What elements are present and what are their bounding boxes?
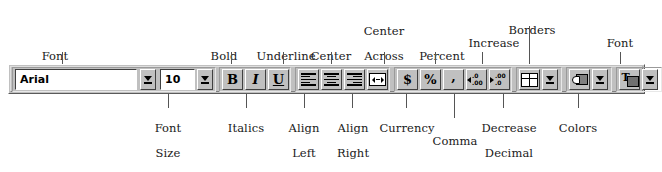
formatting-toolbar: Arial 10 B I U: [8, 64, 645, 94]
callout-label-align-right: Align Right: [329, 110, 377, 172]
italic-icon: I: [252, 73, 258, 86]
font-color-dropdown-button[interactable]: [642, 69, 658, 90]
borders-button[interactable]: [519, 69, 540, 90]
bold-button[interactable]: B: [222, 69, 243, 90]
borders-dropdown-button[interactable]: [542, 69, 558, 90]
increase-decimal-button[interactable]: .0 .00: [466, 69, 487, 90]
leader-line-currency: [406, 94, 407, 108]
align-center-button[interactable]: [321, 69, 342, 90]
leader-line-center-across-columns: [384, 52, 385, 64]
leader-line-italics: [246, 94, 247, 108]
chevron-down-icon: [646, 76, 654, 84]
leader-line-font-color: [620, 52, 621, 64]
currency-button[interactable]: $: [397, 69, 418, 90]
chevron-down-icon: [144, 76, 152, 84]
align-left-button[interactable]: [298, 69, 319, 90]
italic-button[interactable]: I: [245, 69, 266, 90]
callout-label-font-size: Font Size: [143, 110, 193, 172]
leader-line-align-right: [352, 94, 353, 108]
decrease-decimal-button[interactable]: .00 .0: [489, 69, 510, 90]
comma-icon: ,: [451, 70, 456, 83]
font-color-button[interactable]: T: [619, 69, 640, 90]
callout-label-comma: Comma: [428, 123, 482, 160]
leader-line-align-left: [304, 94, 305, 108]
chevron-down-icon: [201, 76, 209, 84]
percent-button[interactable]: %: [420, 69, 441, 90]
leader-line-underline: [283, 52, 284, 64]
chevron-down-icon: [596, 76, 604, 84]
paint-bucket-icon: [572, 73, 588, 86]
leader-line-borders: [529, 26, 530, 64]
underline-button[interactable]: U: [268, 69, 289, 90]
leader-line-percent: [435, 52, 436, 64]
leader-line-comma: [454, 94, 455, 118]
colors-button[interactable]: [569, 69, 590, 90]
center-across-columns-button[interactable]: [367, 69, 388, 90]
callout-label-borders: Borders: [503, 12, 561, 49]
underline-icon: U: [273, 73, 284, 86]
percent-icon: %: [424, 73, 436, 86]
font-name-dropdown-button[interactable]: [140, 69, 156, 90]
colors-dropdown-button[interactable]: [592, 69, 608, 90]
font-size-dropdown-button[interactable]: [197, 69, 213, 90]
center-across-columns-icon: [369, 73, 386, 86]
leader-line-font: [62, 52, 63, 64]
callout-label-align-left: Align Left: [281, 110, 327, 172]
chevron-down-icon: [546, 76, 554, 84]
leader-line-increase-decimal: [482, 52, 483, 64]
align-left-icon: [301, 73, 316, 86]
font-size-field[interactable]: 10: [160, 69, 195, 90]
leader-line-font-size: [168, 94, 169, 108]
decrease-decimal-icon: .00 .0: [490, 73, 509, 86]
callout-label-italics: Italics: [221, 110, 271, 147]
callout-label-decrease-decimal: Decrease Decimal: [478, 110, 540, 172]
font-color-icon: T: [622, 73, 638, 86]
callout-label-colors: Colors: [553, 110, 603, 147]
increase-decimal-icon: .0 .00: [467, 73, 486, 86]
leader-line-bold: [231, 52, 232, 64]
leader-line-colors: [578, 94, 579, 108]
align-right-icon: [347, 73, 362, 86]
leader-line-decrease-decimal: [503, 94, 504, 108]
font-name-field[interactable]: Arial: [15, 69, 137, 90]
comma-button[interactable]: ,: [443, 69, 464, 90]
align-center-icon: [324, 73, 339, 86]
bold-icon: B: [227, 73, 238, 86]
leader-line-center: [331, 52, 332, 64]
currency-icon: $: [403, 73, 412, 86]
align-right-button[interactable]: [344, 69, 365, 90]
borders-icon: [521, 73, 538, 87]
